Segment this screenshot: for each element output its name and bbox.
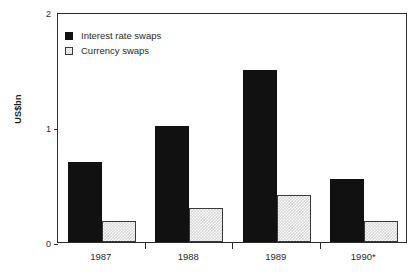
bar <box>155 126 189 242</box>
x-axis-tick-mark <box>320 243 321 249</box>
bar <box>277 195 311 242</box>
x-axis-tick-label: 1990* <box>351 251 376 262</box>
light-checkered-square-icon <box>65 47 73 55</box>
bar <box>68 162 102 243</box>
legend-item-label: Interest rate swaps <box>81 30 161 41</box>
bar <box>364 221 398 242</box>
bar-chart: US$bn 210 1987198819891990* Interest rat… <box>0 0 419 274</box>
legend-item-currency-swaps: Currency swaps <box>65 44 161 57</box>
legend-item-label: Currency swaps <box>81 45 149 56</box>
bar <box>189 208 223 243</box>
x-axis-tick-label: 1988 <box>178 251 199 262</box>
bar <box>243 70 277 243</box>
chart-legend: Interest rate swaps Currency swaps <box>65 29 161 59</box>
y-axis-title: US$bn <box>13 74 23 144</box>
x-axis-tick-label: 1987 <box>90 251 111 262</box>
y-axis-tick-mark <box>54 244 58 245</box>
bar-group <box>155 14 223 242</box>
bar-group <box>330 14 398 242</box>
bar <box>330 179 364 242</box>
solid-black-square-icon <box>65 32 73 40</box>
x-axis-tick-mark <box>232 243 233 249</box>
bar <box>102 221 136 242</box>
x-axis-tick-label: 1989 <box>265 251 286 262</box>
x-axis-tick-mark <box>145 243 146 249</box>
y-axis-tick-label: 2 <box>46 9 58 19</box>
legend-item-interest-rate-swaps: Interest rate swaps <box>65 29 161 42</box>
bar-group <box>243 14 311 242</box>
